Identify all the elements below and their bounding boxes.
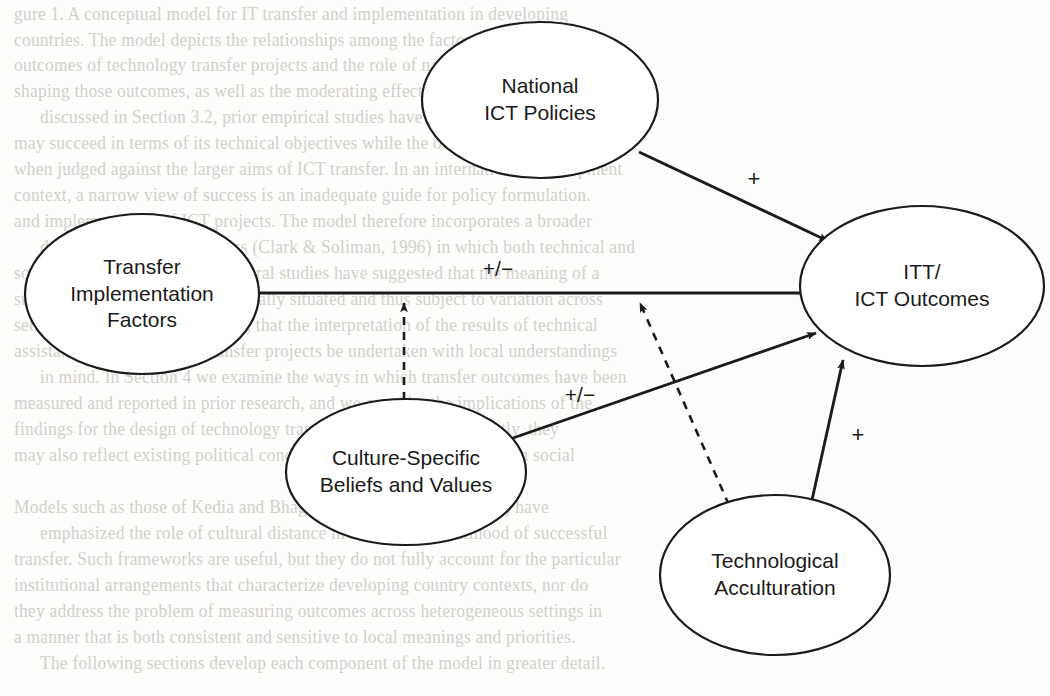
node-itt-ict-outcomes: [800, 206, 1044, 366]
edge-policies-to-outcomes: [639, 152, 828, 241]
figure-page: gure 1. A conceptual model for IT transf…: [0, 0, 1050, 696]
node-national-ict-policies: [422, 22, 658, 178]
node-transfer-implementation-factors: [25, 214, 259, 374]
edge-culture-to-outcomes: [513, 333, 816, 438]
edge-acculturation-moderates-transfer-path: [640, 303, 729, 505]
model-nodes: [25, 22, 1044, 655]
node-technological-acculturation: [660, 495, 890, 655]
conceptual-model-diagram: [0, 0, 1050, 696]
edge-acculturation-to-outcomes: [812, 360, 843, 500]
node-culture-specific-beliefs-and-values: [286, 399, 526, 545]
